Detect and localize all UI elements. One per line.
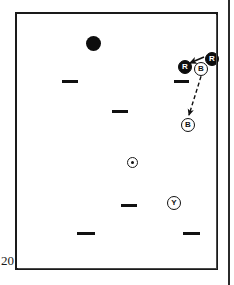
page-canvas: 20 <box>0 0 234 285</box>
token-label: B <box>185 121 191 129</box>
dashed-arrow-b <box>189 70 203 115</box>
page-edge-rule <box>228 0 230 285</box>
token-label: R <box>209 55 215 63</box>
token-b-top[interactable]: B <box>194 62 208 76</box>
arrow-layer <box>17 14 220 272</box>
token-label: B <box>198 65 204 73</box>
diagram-frame: R R B B Y <box>15 12 218 270</box>
token-r-left[interactable]: R <box>178 60 192 74</box>
token-r-right[interactable]: R <box>205 52 219 66</box>
token-label: Y <box>171 199 176 207</box>
token-label: R <box>182 63 188 71</box>
page-number: 20 <box>1 254 14 267</box>
diagram-field: R R B B Y <box>17 14 216 268</box>
token-y[interactable]: Y <box>167 196 181 210</box>
token-b-bottom[interactable]: B <box>181 118 195 132</box>
